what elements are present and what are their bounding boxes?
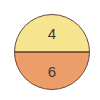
top-value-label: 4 <box>32 26 72 42</box>
split-circle-diagram <box>0 0 100 100</box>
bottom-value-label: 6 <box>32 64 72 80</box>
